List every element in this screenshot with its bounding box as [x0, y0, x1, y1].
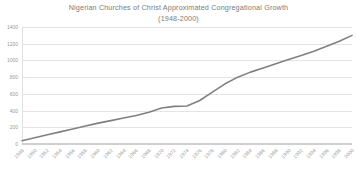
- y-axis-tick-label: 0: [15, 141, 18, 147]
- x-axis-tick-label: 1978: [203, 147, 215, 159]
- x-axis-tick-label: 1990: [279, 147, 291, 159]
- chart-subtitle: (1948-2000): [0, 13, 357, 24]
- x-axis-tick-label: 1958: [76, 147, 88, 159]
- x-axis-tick-label: 1986: [254, 147, 266, 159]
- x-axis-tick-label: 1988: [267, 147, 279, 159]
- chart-title-block: Nigerian Churches of Christ Approximated…: [0, 2, 357, 24]
- plot-area: [22, 27, 352, 144]
- x-axis-labels: 1948195019521954195619581960196219641966…: [22, 146, 352, 179]
- x-axis-tick-label: 1950: [25, 147, 37, 159]
- gridline: [22, 144, 352, 145]
- x-axis-tick-label: 1948: [13, 147, 25, 159]
- x-axis-tick-label: 1964: [114, 147, 126, 159]
- y-axis-tick-label: 600: [10, 91, 18, 97]
- series-layer: [22, 27, 352, 144]
- x-axis-tick-label: 1994: [305, 147, 317, 159]
- x-axis-tick-label: 1980: [216, 147, 228, 159]
- x-axis-tick-label: 1960: [89, 147, 101, 159]
- x-axis-tick-label: 1968: [140, 147, 152, 159]
- x-axis-tick-label: 1998: [330, 147, 342, 159]
- x-axis-tick-label: 1956: [64, 147, 76, 159]
- x-axis-tick-label: 1982: [229, 147, 241, 159]
- y-axis-tick-label: 200: [10, 124, 18, 130]
- x-axis-tick-label: 1974: [178, 147, 190, 159]
- x-axis-tick-label: 1970: [152, 147, 164, 159]
- series-line-congregations: [22, 35, 352, 140]
- y-axis-tick-label: 400: [10, 108, 18, 114]
- x-axis-tick-label: 1966: [127, 147, 139, 159]
- x-axis-tick-label: 1952: [38, 147, 50, 159]
- x-axis-tick-label: 1954: [51, 147, 63, 159]
- x-axis-tick-label: 2000: [343, 147, 355, 159]
- y-axis-tick-label: 1200: [7, 41, 18, 47]
- x-axis-tick-label: 1976: [190, 147, 202, 159]
- x-axis-tick-label: 1992: [292, 147, 304, 159]
- y-axis-tick-label: 800: [10, 74, 18, 80]
- x-axis-tick-label: 1962: [102, 147, 114, 159]
- y-axis-tick-label: 1400: [7, 24, 18, 30]
- chart-title: Nigerian Churches of Christ Approximated…: [0, 2, 357, 13]
- y-axis-tick-label: 1000: [7, 57, 18, 63]
- x-axis-tick-label: 1996: [317, 147, 329, 159]
- y-axis-labels: 0200400600800100012001400: [0, 27, 20, 144]
- x-axis-tick-label: 1972: [165, 147, 177, 159]
- chart-container: Nigerian Churches of Christ Approximated…: [0, 0, 357, 179]
- x-axis-tick-label: 1984: [241, 147, 253, 159]
